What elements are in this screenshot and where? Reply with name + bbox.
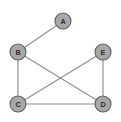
edge-layer bbox=[18, 21, 103, 104]
graph-node-b[interactable]: B bbox=[10, 44, 26, 60]
graph-node-c[interactable]: C bbox=[10, 96, 26, 112]
graph-node-d[interactable]: D bbox=[95, 96, 111, 112]
graph-node-label-b: B bbox=[15, 48, 20, 57]
node-layer: ABECD bbox=[10, 13, 111, 112]
graph-node-label-a: A bbox=[60, 17, 65, 26]
graph-node-a[interactable]: A bbox=[55, 13, 71, 29]
graph-diagram: ABECD bbox=[0, 0, 121, 122]
graph-node-label-c: C bbox=[15, 100, 20, 109]
graph-node-label-e: E bbox=[101, 48, 106, 57]
graph-canvas: ABECD bbox=[0, 0, 121, 122]
graph-node-label-d: D bbox=[100, 100, 105, 109]
graph-node-e[interactable]: E bbox=[95, 44, 111, 60]
